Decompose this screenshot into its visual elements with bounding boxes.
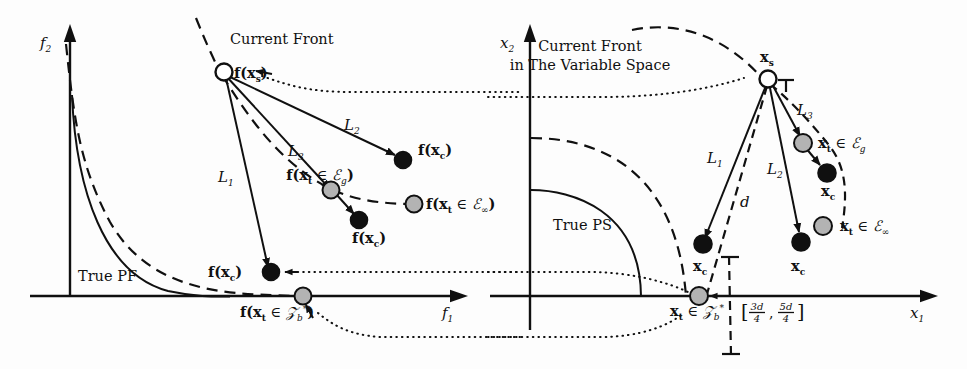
right-child-eg-label: xc [821,182,836,202]
right-source-point [760,71,777,88]
left-child-point-mid [351,212,368,229]
right-x-axis-label: x1 [910,304,924,324]
right-x-axis-arrowhead [920,290,938,302]
interval-close-bracket: ] [797,300,804,322]
right-child-mid-label: xc [791,257,806,277]
left-target-eg-point [323,182,340,199]
left-L1-arrow [226,78,268,267]
right-child-left-label: xc [693,257,708,277]
right-target-zb-label: xt ∈ 𝒵b* [670,302,725,322]
right-dotted-connector-bottom [488,313,684,337]
left-L3-label: L3 [287,142,304,162]
left-child-low-label: f(xc) [208,263,242,283]
left-x-axis-label: f1 [441,304,453,324]
right-interval-bracket-line [729,256,731,355]
left-y-axis-arrowhead [64,24,76,42]
interval-comma: , [769,305,773,321]
right-L3-label: L3 [796,101,813,121]
left-current-front-curve [66,44,300,296]
right-child-point-eg [818,164,836,182]
right-current-front-label-line1: Current Front [538,38,642,54]
left-front-arc-through-targets [222,75,414,204]
right-y-axis-label: x2 [500,34,514,54]
variable-space-panel: x2 x1 True PS Current Front in The Varia… [488,24,938,355]
right-target-einf-point [814,217,832,235]
figure-root: f2 f1 True PF Current Front f(xs) L1 L2 … [0,0,967,369]
right-child-point-mid [792,233,810,251]
right-source-point-label: xs [760,48,774,68]
left-y-axis-label: f2 [39,34,52,54]
left-dotted-connector-top [262,76,520,92]
right-target-einf-label: xt ∈ ℰ∞ [840,217,889,237]
right-dotted-connector-mid [488,272,690,293]
interval-numerator-2: 5d [780,301,793,312]
right-dotted-connector-top [488,78,744,97]
left-target-zb-point [295,288,312,305]
interval-denominator-2: 4 [782,313,789,324]
left-target-einf-point [406,196,423,213]
left-source-point [216,64,233,81]
left-child-point-right [395,152,412,169]
left-x-axis-arrowhead [450,290,468,302]
objective-space-panel: f2 f1 True PF Current Front f(xs) L1 L2 … [30,18,520,337]
right-L2-label: L2 [766,160,783,180]
left-front-upper-dash [196,18,220,72]
interval-numerator-1: 3d [751,301,764,312]
left-L1-label: L1 [217,168,234,188]
right-true-ps-curve [531,190,641,296]
right-child-point-left [694,235,712,253]
left-child-right-label: f(xc) [418,141,452,161]
left-L2-label: L2 [343,116,360,136]
right-d-dashed-line [707,86,767,294]
right-y-axis-arrowhead [524,24,536,42]
right-interval-label: [ 3d 4 , 5d 4 ] [741,300,804,324]
right-target-eg-label: xt ∈ ℰg [818,134,866,154]
left-current-front-label: Current Front [230,31,334,47]
interval-open-bracket: [ [741,300,748,322]
left-child-point-low [263,264,280,281]
right-L1-label: L1 [706,149,723,169]
right-target-eg-point [794,134,812,152]
right-true-ps-label: True PS [553,217,612,233]
right-d-label: d [740,193,750,211]
left-true-pf-label: True PF [78,268,137,284]
left-dotted-connector-bottom [318,313,520,337]
interval-denominator-1: 4 [753,313,760,324]
left-target-zb-label: f(xt ∈ 𝒵b*) [240,303,314,323]
left-true-pf-curve [72,95,230,296]
left-target-einf-label: f(xt ∈ ℰ∞) [426,195,495,215]
left-child-mid-label: f(xc) [352,229,386,249]
left-L2-arrow [228,76,395,155]
right-front-chain-dash [770,84,845,228]
right-current-front-label-line2: in The Variable Space [510,57,670,73]
